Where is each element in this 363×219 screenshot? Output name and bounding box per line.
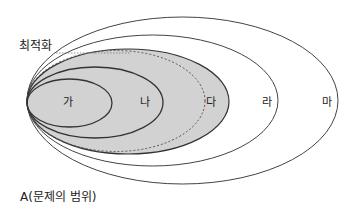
region-label-ga: 가 [63, 97, 73, 108]
diagram-canvas [0, 0, 363, 219]
region-label-da: 다 [206, 97, 216, 108]
region-da-ellipse [27, 49, 229, 154]
problem-scope-label: A(문제의 범위) [20, 191, 96, 203]
region-label-ra: 라 [262, 97, 272, 108]
region-label-na: 나 [140, 97, 150, 108]
region-label-ma: 마 [322, 97, 332, 108]
optimization-label: 최적화 [19, 40, 52, 52]
